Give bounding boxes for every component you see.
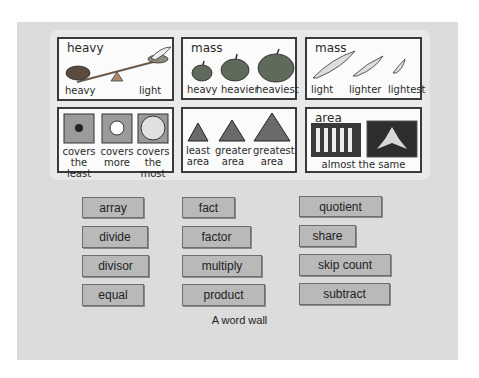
word-card-equal: equal bbox=[82, 284, 144, 306]
word-card-factor: factor bbox=[182, 226, 251, 248]
word-card-fact: fact bbox=[182, 197, 235, 218]
word-card-quotient: quotient bbox=[299, 196, 382, 217]
label-lighter: lighter bbox=[349, 84, 381, 95]
label-covers-more: covers more bbox=[99, 146, 135, 168]
label-almost-same: almost the same bbox=[307, 159, 420, 170]
label-heavier: heavier bbox=[221, 84, 259, 95]
panel-heavy-seesaw: heavy heavy light bbox=[57, 37, 174, 101]
panel-covers: covers the least covers more covers the … bbox=[57, 107, 174, 173]
label-light: light bbox=[311, 84, 333, 95]
panel-mass-feathers: mass light lighter lightest bbox=[305, 37, 422, 100]
label-light: light bbox=[139, 85, 161, 96]
figure-caption: A word wall bbox=[0, 314, 479, 326]
word-card-share: share bbox=[299, 225, 356, 247]
word-card-product: product bbox=[182, 284, 265, 306]
label-least-area: least area bbox=[185, 145, 211, 167]
panel-mass-pumpkins: mass heavy heavier heaviest bbox=[181, 37, 297, 100]
label-covers-most: covers the most bbox=[135, 146, 171, 179]
panel-area-rugs: area almost the same bbox=[305, 107, 422, 173]
label-heavy: heavy bbox=[187, 84, 217, 95]
word-card-array: array bbox=[82, 197, 144, 218]
label-heavy: heavy bbox=[65, 85, 95, 96]
word-card-multiply: multiply bbox=[182, 255, 262, 277]
label-greater-area: greater area bbox=[215, 145, 251, 167]
word-card-subtract: subtract bbox=[299, 283, 390, 305]
label-greatest-area: greatest area bbox=[253, 145, 291, 167]
label-covers-least: covers the least bbox=[61, 146, 97, 179]
label-heaviest: heaviest bbox=[256, 84, 299, 95]
label-lightest: lightest bbox=[388, 84, 425, 95]
word-card-divide: divide bbox=[82, 226, 148, 248]
word-card-skip-count: skip count bbox=[299, 254, 391, 276]
panel-area-triangles: least area greater area greatest area bbox=[181, 107, 297, 173]
word-card-divisor: divisor bbox=[82, 255, 149, 277]
